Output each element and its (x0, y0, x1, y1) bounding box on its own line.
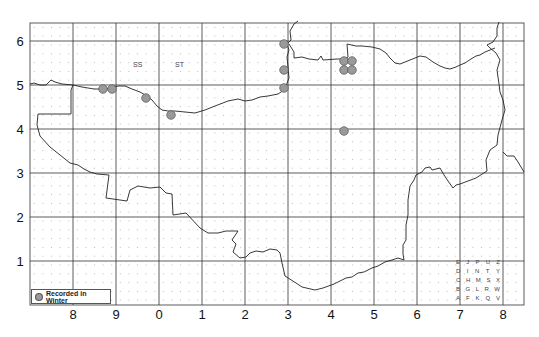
record-marker (340, 127, 349, 136)
x-axis-label: 4 (323, 307, 339, 322)
x-axis-label: 3 (280, 307, 296, 322)
record-marker (142, 94, 151, 103)
legend: Recorded in Winter (31, 289, 111, 304)
tetrad-letter: J (466, 258, 469, 267)
tetrad-letter: I (467, 267, 469, 276)
y-axis-label-3: 3 (14, 166, 26, 181)
tetrad-letter: C (456, 276, 460, 285)
tetrad-letter: N (475, 267, 479, 276)
tetrad-letter: L (476, 285, 479, 294)
tetrad-letter: F (466, 294, 470, 303)
tetrad-letter: B (456, 285, 460, 294)
tetrad-letter: D (456, 267, 460, 276)
tetrad-letter: P (475, 258, 479, 267)
record-marker (280, 40, 289, 49)
y-axis-label-6: 6 (14, 34, 26, 49)
tetrad-letter: M (476, 276, 481, 285)
x-axis-label: 2 (237, 307, 253, 322)
record-marker (167, 111, 176, 120)
tetrad-letter: G (466, 285, 471, 294)
record-marker (280, 84, 289, 93)
tetrad-letter: Z (496, 258, 500, 267)
tetrad-letter: E (456, 258, 460, 267)
tetrad-letter: H (466, 276, 470, 285)
legend-label: Recorded in Winter (46, 290, 110, 304)
tetrad-key-row: E J P U Z (456, 258, 500, 267)
tetrad-dot-grid (30, 23, 524, 305)
tetrad-letter: Y (496, 267, 500, 276)
record-marker (340, 66, 349, 75)
x-axis-label: 6 (409, 307, 425, 322)
grid-square-label-st: ST (175, 61, 184, 68)
x-axis-label: 5 (366, 307, 382, 322)
tetrad-letter: R (484, 285, 488, 294)
record-marker-icon (35, 293, 43, 301)
grid-square-label-ss: SS (133, 61, 142, 68)
tetrad-key: E J P U Z D I N T Y C H M S X B G L R W … (456, 258, 500, 303)
record-marker (348, 66, 357, 75)
tetrad-key-row: D I N T Y (456, 267, 500, 276)
x-axis-label: 7 (452, 307, 468, 322)
record-marker (280, 66, 289, 75)
x-axis-label: 1 (194, 307, 210, 322)
tetrad-key-row: A F K Q V (456, 294, 500, 303)
x-axis-label: 9 (108, 307, 124, 322)
tetrad-letter: K (475, 294, 479, 303)
tetrad-letter: U (486, 258, 490, 267)
x-axis-label: 0 (151, 307, 167, 322)
record-marker (108, 85, 117, 94)
x-axis-label: 8 (495, 307, 511, 322)
tetrad-key-row: C H M S X (456, 276, 500, 285)
tetrad-letter: V (496, 294, 500, 303)
y-axis-label-2: 2 (14, 210, 26, 225)
tetrad-letter: A (456, 294, 460, 303)
x-axis-label: 8 (65, 307, 81, 322)
tetrad-key-row: B G L R W (456, 285, 500, 294)
tetrad-letter: Q (485, 294, 490, 303)
tetrad-letter: X (496, 276, 500, 285)
y-axis-label-5: 5 (14, 78, 26, 93)
tetrad-letter: T (486, 267, 490, 276)
record-marker (99, 85, 108, 94)
tetrad-letter: S (486, 276, 490, 285)
record-marker (340, 57, 349, 66)
record-marker (348, 57, 357, 66)
y-axis-label-4: 4 (14, 122, 26, 137)
y-axis-label-1: 1 (14, 254, 26, 269)
tetrad-letter: W (494, 285, 500, 294)
